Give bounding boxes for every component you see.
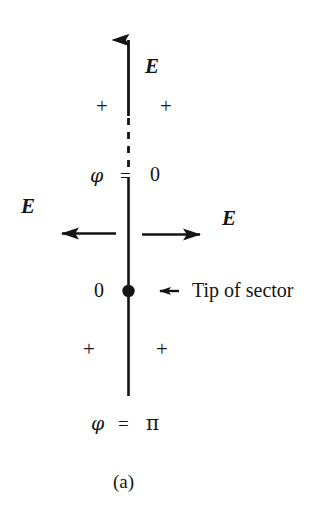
field-label-right: E — [222, 208, 236, 229]
equals-sign-bottom: = — [118, 414, 129, 433]
figure-vector-layer — [0, 0, 333, 518]
tip-of-sector-annotation: Tip of sector — [192, 280, 293, 300]
plus-sign-top-right: + — [160, 96, 172, 117]
origin-label: 0 — [94, 280, 104, 300]
equals-sign-top: = — [120, 166, 131, 185]
figure-caption: (a) — [113, 472, 134, 491]
plus-sign-bottom-left: + — [83, 339, 95, 360]
phi-value-bottom: π — [146, 413, 159, 433]
physics-figure: E + + φ = 0 E E 0 Tip of sector + + φ = … — [0, 0, 333, 518]
phi-value-top: 0 — [150, 164, 160, 184]
field-label-left: E — [21, 196, 35, 217]
plus-sign-top-left: + — [96, 96, 108, 117]
plus-sign-bottom-right: + — [156, 339, 168, 360]
tip-point-charge — [122, 285, 134, 297]
phi-symbol-bottom: φ — [91, 414, 104, 433]
phi-symbol-top: φ — [90, 166, 103, 185]
field-label-top: E — [145, 56, 159, 77]
